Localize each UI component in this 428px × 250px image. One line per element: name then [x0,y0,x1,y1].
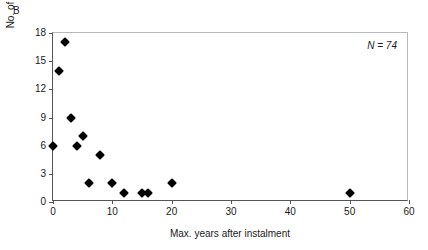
y-axis-title: No. of references [6,0,16,60]
data-point [143,188,153,198]
data-point [84,178,94,188]
data-point [66,113,76,123]
y-axis-tick [49,118,53,119]
data-point [72,141,82,151]
sample-size-annotation: N = 74 [367,41,397,51]
y-axis-tick-label: 0 [40,197,46,207]
x-axis-tick-label: 60 [403,207,414,217]
data-point [78,131,88,141]
x-axis-tick-label: 20 [166,207,177,217]
y-axis-tick [49,33,53,34]
y-axis-tick-label: 15 [35,56,46,66]
x-axis-tick [53,200,54,204]
x-axis-tick-label: 0 [50,207,56,217]
data-point [54,66,64,76]
x-axis-tick [290,200,291,204]
x-axis-tick-label: 10 [107,207,118,217]
y-axis-tick [49,174,53,175]
y-axis-tick-label: 18 [35,28,46,38]
plot-area: 0369121518 0102030405060 N = 74 [52,32,408,201]
x-axis-tick-label: 40 [285,207,296,217]
x-axis-tick [231,200,232,204]
x-axis-tick-label: 50 [344,207,355,217]
x-axis-title: Max. years after instalment [52,229,408,239]
data-point [107,178,117,188]
data-point [48,141,58,151]
data-point [345,188,355,198]
scatter-plot-figure: B No. of references 0369121518 010203040… [0,0,428,250]
x-axis-tick [350,200,351,204]
data-point [60,37,70,47]
data-point [96,150,106,160]
x-axis-tick-label: 30 [225,207,236,217]
y-axis-title-container: No. of references [8,0,28,201]
data-point [119,188,129,198]
y-axis-tick [49,89,53,90]
y-axis-tick [49,61,53,62]
y-axis-tick-label: 6 [40,141,46,151]
x-axis-tick [112,200,113,204]
y-axis-tick-label: 12 [35,84,46,94]
x-axis-tick [172,200,173,204]
y-axis-tick-label: 9 [40,113,46,123]
y-axis-tick-label: 3 [40,169,46,179]
data-point [167,178,177,188]
x-axis-tick [409,200,410,204]
